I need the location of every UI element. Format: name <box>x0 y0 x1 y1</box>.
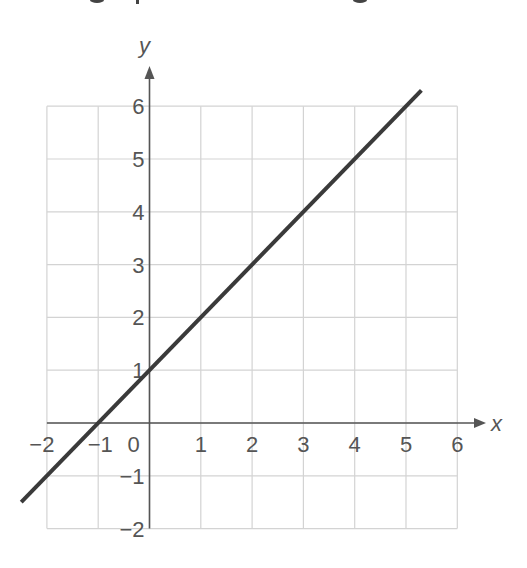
x-tick-label: 5 <box>400 432 412 457</box>
y-tick-label: 6 <box>132 94 144 119</box>
y-tick-label: 5 <box>132 147 144 172</box>
x-tick-label: −2 <box>29 432 54 457</box>
x-tick-label: 4 <box>349 432 361 457</box>
series-line <box>21 90 421 502</box>
y-axis-label: y <box>137 33 152 58</box>
x-tick-label: 2 <box>246 432 258 457</box>
clipped-heading-fragments <box>90 0 367 4</box>
y-tick-label: −2 <box>119 517 144 542</box>
x-tick-label: 1 <box>195 432 207 457</box>
x-axis-arrow-icon <box>474 418 486 428</box>
y-axis-arrow-icon <box>145 66 155 79</box>
x-axis-label: x <box>490 411 503 436</box>
graph: −2−10123456654321−1−2 xy <box>0 0 527 568</box>
axes <box>47 66 486 529</box>
y-tick-label: 4 <box>132 200 144 225</box>
x-tick-label: −1 <box>88 432 113 457</box>
plot-line <box>21 90 421 502</box>
x-tick-label: 6 <box>451 432 463 457</box>
x-tick-label: 3 <box>297 432 309 457</box>
x-tick-label: 0 <box>127 432 139 457</box>
y-tick-label: −1 <box>119 464 144 489</box>
y-tick-label: 2 <box>132 305 144 330</box>
axis-labels: xy <box>137 33 503 436</box>
grid <box>47 106 457 528</box>
y-tick-label: 3 <box>132 253 144 278</box>
